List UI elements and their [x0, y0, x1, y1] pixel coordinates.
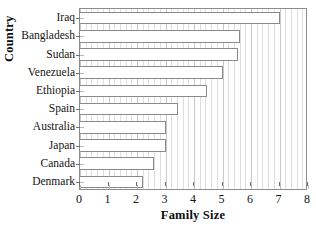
x-tick-mark — [250, 182, 251, 186]
bar-ethiopia — [79, 85, 207, 98]
y-tick-label: Sudan — [46, 48, 75, 60]
y-tick-label: Bangladesh — [21, 29, 75, 41]
x-tick-mark-inner — [109, 185, 110, 189]
bar-row — [80, 103, 306, 116]
x-tick-mark — [136, 182, 137, 186]
y-tick-mark-inner — [80, 55, 84, 56]
x-tick-mark-inner — [308, 185, 309, 189]
x-tick-label: 0 — [67, 192, 91, 206]
x-axis-title: Family Size — [79, 208, 307, 223]
x-tick-mark-inner — [251, 185, 252, 189]
bar-series — [80, 9, 306, 189]
y-tick-label: Canada — [41, 157, 75, 169]
x-tick-label: 4 — [181, 192, 205, 206]
y-tick-mark-inner — [80, 73, 84, 74]
bar-japan — [79, 139, 166, 152]
x-tick-mark — [108, 182, 109, 186]
bar-row — [80, 48, 306, 61]
bar-row — [80, 66, 306, 79]
y-tick-label: Spain — [49, 102, 75, 114]
x-tick-label: 2 — [124, 192, 148, 206]
x-tick-mark — [307, 182, 308, 186]
cropped-text-fragment: · · · · · · · · — [4, 0, 50, 1]
x-tick-mark-inner — [223, 185, 224, 189]
bar-row — [80, 139, 306, 152]
bar-spain — [79, 103, 178, 116]
x-tick-mark — [79, 182, 80, 186]
y-tick-mark-inner — [80, 18, 84, 19]
y-tick-label: Denmark — [32, 175, 75, 187]
y-axis-title: Country — [2, 15, 17, 62]
x-tick-mark-inner — [137, 185, 138, 189]
y-tick-label: Japan — [49, 139, 75, 151]
y-tick-mark-inner — [80, 127, 84, 128]
x-tick-label: 7 — [267, 192, 291, 206]
y-tick-mark-inner — [80, 146, 84, 147]
x-tick-mark-inner — [166, 185, 167, 189]
y-tick-mark-inner — [80, 182, 84, 183]
bar-row — [80, 30, 306, 43]
x-tick-mark-inner — [280, 185, 281, 189]
y-tick-label: Venezuela — [28, 66, 75, 78]
bar-australia — [79, 121, 166, 134]
bar-iraq — [79, 12, 280, 25]
x-tick-mark — [222, 182, 223, 186]
y-tick-mark-inner — [80, 164, 84, 165]
y-tick-label: Ethiopia — [36, 84, 75, 96]
bar-bangladesh — [79, 30, 240, 43]
bar-row — [80, 12, 306, 25]
bar-row — [80, 121, 306, 134]
x-tick-mark-inner — [194, 185, 195, 189]
y-tick-mark-inner — [80, 109, 84, 110]
y-tick-mark-inner — [80, 36, 84, 37]
bar-denmark — [79, 176, 143, 189]
x-tick-label: 1 — [96, 192, 120, 206]
x-tick-mark-inner — [80, 185, 81, 189]
x-tick-mark — [279, 182, 280, 186]
y-tick-label: Australia — [33, 120, 75, 132]
bar-canada — [79, 157, 154, 170]
bar-sudan — [79, 48, 238, 61]
x-tick-label: 5 — [210, 192, 234, 206]
x-tick-mark — [193, 182, 194, 186]
bar-row — [80, 157, 306, 170]
plot-area — [79, 8, 307, 190]
bar-row — [80, 85, 306, 98]
y-tick-mark-inner — [80, 91, 84, 92]
y-tick-label: Iraq — [56, 11, 75, 23]
bar-venezuela — [79, 66, 223, 79]
family-size-bar-chart: · · · · · · · · Family Size Country Iraq… — [0, 0, 316, 235]
cropped-text-artifact: · · · · · · · · — [0, 0, 316, 5]
x-tick-label: 3 — [153, 192, 177, 206]
x-tick-mark — [165, 182, 166, 186]
x-tick-label: 8 — [295, 192, 316, 206]
x-tick-label: 6 — [238, 192, 262, 206]
